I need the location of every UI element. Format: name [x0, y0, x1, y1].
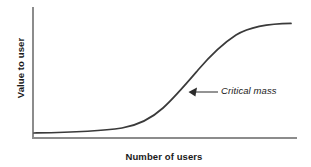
chart-plot-area — [0, 0, 311, 167]
y-axis-label: Value to user — [14, 8, 28, 128]
x-axis-label: Number of users — [33, 151, 295, 162]
chart-figure: Value to user Number of users Critical m… — [0, 0, 311, 167]
value-to-user-curve — [34, 23, 291, 133]
critical-mass-arrow-head — [189, 88, 198, 97]
critical-mass-annotation-label: Critical mass — [221, 85, 277, 96]
